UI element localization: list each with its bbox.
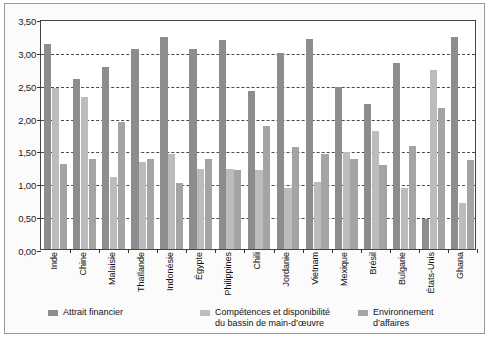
legend-item: Compétences et disponibilité du bassin d… [200, 307, 330, 329]
bar [467, 160, 474, 249]
bar [197, 169, 204, 249]
x-axis-label: Thaïlande [137, 252, 146, 292]
y-tick-label: 3,50 [18, 16, 36, 27]
bar [263, 126, 270, 249]
y-tick-label: 0,00 [18, 246, 36, 257]
x-axis-label: Mexique [340, 252, 349, 286]
x-axis-label: Égypte [195, 252, 204, 280]
bar [81, 97, 88, 249]
bar [226, 169, 233, 249]
bar-group [189, 21, 212, 249]
bar [234, 170, 241, 249]
bar-group [277, 21, 300, 249]
bar [284, 188, 291, 249]
x-axis-label: Vietnam [311, 252, 320, 285]
bar [306, 39, 313, 249]
legend-item: Environnement d’affaires [358, 307, 468, 329]
legend-label: Environnement d’affaires [373, 307, 468, 329]
bar [118, 122, 125, 249]
legend-label: Attrait financier [63, 307, 123, 318]
bar-group [102, 21, 125, 249]
bar [379, 165, 386, 249]
bar [292, 147, 299, 249]
x-axis-labels: IndeChineMalaisieThaïlandeIndonésieÉgypt… [40, 252, 476, 308]
bar [160, 37, 167, 249]
bar [110, 177, 117, 249]
x-axis-label: Bulgarie [398, 252, 407, 285]
bar [89, 159, 96, 249]
legend-swatch-icon [358, 310, 368, 316]
bar [139, 162, 146, 249]
bar [52, 88, 59, 249]
bar [409, 146, 416, 249]
bar-group [335, 21, 358, 249]
y-tick-label: 1,00 [18, 180, 36, 191]
bar [176, 183, 183, 249]
y-tick-label: 3,00 [18, 48, 36, 59]
chart-figure: 0,000,501,001,502,002,503,003,50 IndeChi… [0, 0, 490, 338]
bar [60, 164, 67, 249]
x-axis-label: Chine [79, 252, 88, 276]
legend-swatch-icon [200, 310, 210, 316]
bar-group [73, 21, 96, 249]
bar [343, 152, 350, 249]
bar [438, 108, 445, 249]
bar [205, 159, 212, 249]
bar [422, 219, 429, 249]
bar-group [451, 21, 474, 249]
legend-swatch-icon [48, 310, 58, 316]
bar [430, 70, 437, 249]
y-tick-label: 1,50 [18, 147, 36, 158]
bar [401, 188, 408, 249]
x-axis-label: États-Unis [427, 252, 436, 294]
bar [73, 79, 80, 249]
bar [372, 131, 379, 249]
bar [255, 170, 262, 249]
bar [335, 87, 342, 249]
x-axis-label: Ghana [456, 252, 465, 279]
bar-group [44, 21, 67, 249]
bar-group [248, 21, 271, 249]
bar-group [131, 21, 154, 249]
y-tick-label: 0,50 [18, 213, 36, 224]
bar-group [306, 21, 329, 249]
bar [189, 49, 196, 249]
x-axis-label: Jordanie [282, 252, 291, 287]
bar [393, 63, 400, 249]
bar [321, 154, 328, 249]
bar [147, 159, 154, 249]
bar-group [160, 21, 183, 249]
bar-group [219, 21, 242, 249]
bar [131, 49, 138, 249]
x-axis-label: Philippines [224, 252, 233, 296]
bar [350, 159, 357, 249]
bar [451, 37, 458, 249]
y-tick-label: 2,50 [18, 81, 36, 92]
y-tick-label: 2,00 [18, 114, 36, 125]
chart-legend: Attrait financierCompétences et disponib… [48, 307, 468, 333]
x-axis-label: Inde [50, 252, 59, 270]
bars-layer [41, 21, 475, 249]
bar [277, 53, 284, 249]
bar [314, 182, 321, 249]
bar [364, 104, 371, 249]
bar [219, 40, 226, 249]
x-tick-mark [477, 249, 478, 253]
plot-wrapper: 0,000,501,001,502,002,503,003,50 [40, 20, 476, 250]
x-axis-label: Brésil [369, 252, 378, 275]
bar [168, 154, 175, 249]
x-axis-label: Chili [253, 252, 262, 270]
legend-label: Compétences et disponibilité du bassin d… [215, 307, 330, 329]
bar [459, 203, 466, 249]
x-axis-label: Indonésie [166, 252, 175, 291]
legend-item: Attrait financier [48, 307, 123, 318]
x-axis-label: Malaisie [108, 252, 117, 285]
plot-area: 0,000,501,001,502,002,503,003,50 [40, 20, 476, 250]
bar [102, 67, 109, 249]
bar-group [393, 21, 416, 249]
bar [44, 44, 51, 249]
bar-group [364, 21, 387, 249]
bar-group [422, 21, 445, 249]
bar [248, 91, 255, 249]
